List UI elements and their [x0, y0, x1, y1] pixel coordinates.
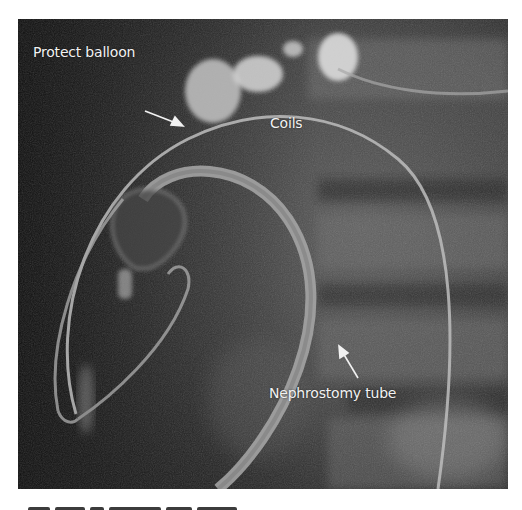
figure-caption — [18, 489, 508, 510]
label-nephrostomy-tube: Nephrostomy tube — [269, 385, 396, 401]
caption-truncated-text — [28, 501, 268, 510]
label-protect-balloon: Protect balloon — [33, 44, 135, 60]
radiograph-figure: Protect balloon Coils Nephrostomy tube — [18, 19, 508, 489]
label-coils: Coils — [270, 115, 302, 131]
radiograph-image — [18, 19, 508, 489]
